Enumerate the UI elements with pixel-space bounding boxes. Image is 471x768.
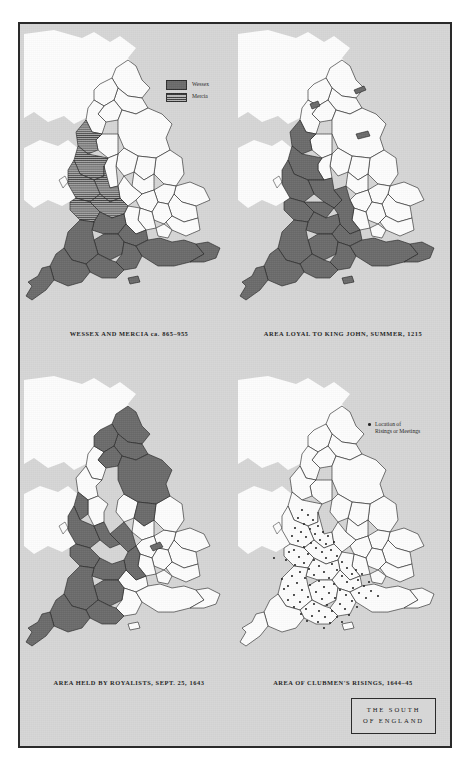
- rising-dot: [351, 573, 353, 575]
- rising-dot: [305, 536, 307, 538]
- loyal-cornwall: [240, 266, 268, 300]
- rising-dot: [346, 567, 348, 569]
- rising-dot: [355, 569, 357, 571]
- rising-dot: [313, 603, 315, 605]
- rising-dot: [344, 608, 346, 610]
- legend-label-mercia: Mercia: [192, 94, 208, 100]
- rising-dot: [325, 543, 327, 545]
- rising-dot: [304, 577, 306, 579]
- rising-dot: [306, 620, 308, 622]
- legend-clubmen: Location of Risings or Meetings: [368, 421, 420, 435]
- rising-dot: [370, 590, 372, 592]
- rising-dot: [285, 559, 287, 561]
- rising-dot: [297, 517, 299, 519]
- rising-dot: [345, 594, 347, 596]
- rising-dot: [328, 592, 330, 594]
- rising-dot: [315, 547, 317, 549]
- legend-dot-icon: [368, 423, 371, 426]
- rising-dot: [339, 603, 341, 605]
- rising-dot: [328, 577, 330, 579]
- rising-dot: [348, 614, 350, 616]
- legend-row-mercia: Mercia: [166, 93, 209, 103]
- county-isle-wight: [342, 622, 354, 630]
- rising-dot: [273, 557, 275, 559]
- rising-dot: [312, 519, 314, 521]
- panel-wessex-mercia: Wessex Mercia WESSEX AND MERCIA ca. 865–…: [24, 28, 234, 350]
- rising-dot: [307, 596, 309, 598]
- rising-dot: [318, 610, 320, 612]
- rising-dot: [341, 575, 343, 577]
- map-royalists: [24, 374, 234, 674]
- rising-dot: [318, 580, 320, 582]
- county-stafford-parl: [88, 496, 108, 526]
- rising-dot: [329, 622, 331, 624]
- rising-dot: [323, 627, 325, 629]
- figure-title-line2: OF ENGLAND: [363, 716, 424, 727]
- rising-dot: [294, 527, 296, 529]
- rising-dot: [299, 571, 301, 573]
- county-cheshire: [96, 134, 118, 158]
- legend-swatch-wessex: [166, 80, 187, 90]
- rising-dot: [336, 569, 338, 571]
- panel-clubmen: Location of Risings or Meetings AREA OF …: [238, 374, 448, 704]
- caption-king-john: AREA LOYAL TO KING JOHN, SUMMER, 1215: [238, 330, 448, 337]
- rising-dot: [303, 562, 305, 564]
- rising-dot: [322, 531, 324, 533]
- rising-dot: [365, 597, 367, 599]
- county-cheshire: [310, 480, 332, 504]
- caption-royalists: AREA HELD BY ROYALISTS, SEPT. 25, 1643: [24, 679, 234, 686]
- legend-wessex-mercia: Wessex Mercia: [166, 80, 209, 105]
- rising-dot: [339, 589, 341, 591]
- county-cheshire: [310, 134, 332, 158]
- loyal-isle-wight: [342, 276, 354, 284]
- rising-dot: [356, 606, 358, 608]
- rising-dot: [318, 565, 320, 567]
- rising-dot: [303, 546, 305, 548]
- rising-dot: [299, 601, 301, 603]
- royalist-warwick: [110, 522, 136, 552]
- rising-dot: [307, 553, 309, 555]
- map-wessex-mercia: [24, 28, 234, 328]
- rising-dot: [358, 592, 360, 594]
- rising-dot: [293, 606, 295, 608]
- legend-dot-label-line1: Location of: [375, 421, 401, 427]
- rising-dot: [287, 599, 289, 601]
- rising-dot: [351, 600, 353, 602]
- rising-dot: [301, 589, 303, 591]
- rising-dot: [294, 564, 296, 566]
- rising-dot: [341, 561, 343, 563]
- rising-dot: [291, 535, 293, 537]
- rising-dot: [311, 615, 313, 617]
- rising-dot: [298, 556, 300, 558]
- royalist-cornwall: [26, 612, 54, 646]
- caption-clubmen: AREA OF CLUBMEN'S RISINGS, 1644–45: [238, 679, 448, 686]
- legend-dot-label: Location of Risings or Meetings: [375, 421, 420, 435]
- rising-dot: [317, 525, 319, 527]
- wessex-isle-wight: [128, 276, 140, 284]
- rising-dot: [352, 587, 354, 589]
- caption-wessex-mercia: WESSEX AND MERCIA ca. 865–955: [24, 330, 234, 337]
- rising-dot: [305, 608, 307, 610]
- rising-dot: [331, 610, 333, 612]
- rising-dot: [287, 585, 289, 587]
- loyal-gloucester-n: [284, 198, 314, 222]
- county-cornwall: [240, 612, 268, 646]
- rising-dot: [330, 549, 332, 551]
- rising-dot: [309, 584, 311, 586]
- legend-swatch-mercia: [166, 93, 187, 103]
- rising-dot: [300, 613, 302, 615]
- rising-dot: [336, 616, 338, 618]
- rising-dot: [303, 523, 305, 525]
- rising-dot: [307, 514, 309, 516]
- rising-dot: [361, 573, 363, 575]
- rising-dot: [297, 540, 299, 542]
- rising-dot: [357, 579, 359, 581]
- rising-dot: [321, 598, 323, 600]
- rising-dot: [314, 533, 316, 535]
- legend-label-wessex: Wessex: [192, 82, 209, 88]
- rising-dot: [336, 555, 338, 557]
- rising-dot: [326, 604, 328, 606]
- rising-dot: [321, 551, 323, 553]
- rising-dot: [363, 585, 365, 587]
- rising-dot: [368, 581, 370, 583]
